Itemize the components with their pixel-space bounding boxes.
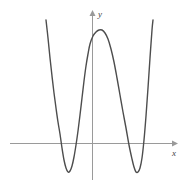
plot-svg: x y (0, 0, 184, 190)
y-axis-arrow-icon (90, 10, 96, 16)
x-axis-label: x (171, 148, 176, 158)
quartic-curve (46, 20, 153, 173)
graph-figure: x y (0, 0, 184, 190)
y-axis-label: y (97, 9, 102, 19)
x-axis-arrow-icon (172, 141, 178, 147)
